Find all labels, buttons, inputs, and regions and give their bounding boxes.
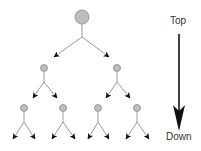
edge-arrow — [54, 37, 82, 57]
edge-arrow — [44, 82, 57, 98]
edge-arrow — [117, 82, 130, 98]
tree-node-l2a — [41, 65, 48, 72]
edge-arrow — [13, 122, 24, 139]
edge-arrow — [98, 122, 109, 139]
down-label: Down — [166, 131, 192, 142]
tree-node-l3a — [21, 105, 28, 112]
edge-arrow — [63, 122, 75, 139]
edge-arrow — [106, 82, 117, 98]
edge-arrow — [82, 37, 109, 57]
edge-arrow — [126, 122, 137, 139]
tree-node-l3b — [60, 105, 67, 112]
tree-node-l3c — [95, 105, 102, 112]
edge-arrow — [33, 82, 44, 98]
edge-arrow — [24, 122, 35, 139]
edge-arrow — [88, 122, 98, 139]
edge-arrow — [137, 122, 149, 139]
direction-arrow-icon — [173, 34, 185, 131]
tree-node-l2b — [114, 65, 121, 72]
tree-node-l3d — [134, 105, 141, 112]
edges-group — [13, 24, 149, 139]
nodes-group — [21, 10, 141, 112]
tree-node-root — [75, 10, 89, 24]
top-label: Top — [170, 15, 186, 26]
edge-arrow — [52, 122, 63, 139]
